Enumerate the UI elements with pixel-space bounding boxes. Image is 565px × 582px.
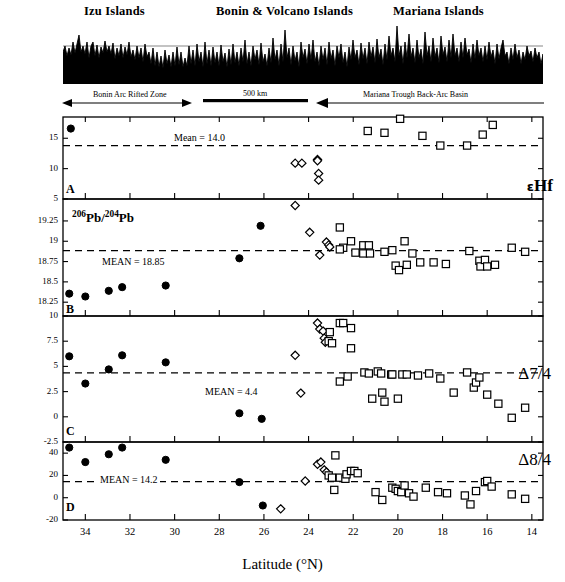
data-point-filled-circle [257, 222, 264, 229]
data-point-filled-circle [66, 290, 73, 297]
x-tick-label-9: 16 [467, 526, 507, 537]
x-tick-label-2: 30 [155, 526, 195, 537]
data-point-open-square [389, 371, 396, 378]
data-point-filled-circle [162, 456, 169, 463]
data-point-open-diamond [316, 251, 324, 259]
data-point-open-square [381, 248, 388, 255]
data-point-open-square [430, 259, 437, 266]
x-tick-label-4: 26 [244, 526, 284, 537]
data-point-open-square [352, 249, 359, 256]
y-tick-label-c-2: 2.5 [8, 386, 58, 396]
panel-a-ylabel: εHf [527, 176, 553, 196]
data-point-open-diamond [297, 389, 305, 397]
data-point-open-square [489, 121, 496, 128]
data-point-open-square [328, 340, 335, 347]
y-tick-label-a-0: 5 [8, 193, 58, 203]
data-point-open-square [366, 250, 373, 257]
y-tick-label-a-2: 15 [8, 132, 58, 142]
data-point-open-square [328, 474, 335, 481]
data-point-open-diamond [301, 477, 309, 485]
data-point-open-square [522, 495, 529, 502]
panel-letter-d: D [66, 500, 75, 515]
panel-b-ylabel: 206Pb/204Pb [72, 209, 134, 226]
data-point-open-square [379, 389, 386, 396]
data-point-open-diamond [291, 351, 299, 359]
data-point-open-diamond [291, 201, 299, 209]
data-point-open-square [403, 371, 410, 378]
data-point-filled-circle [162, 359, 169, 366]
data-point-open-square [331, 486, 338, 493]
panel-d-mean-label: MEAN = 14.2 [98, 474, 160, 485]
data-point-open-square [369, 395, 376, 402]
y-tick-label-b-2: 18.75 [8, 256, 58, 266]
y-tick-label-b-4: 19.25 [8, 215, 58, 225]
data-point-open-square [336, 378, 343, 385]
data-point-open-square [488, 483, 495, 490]
data-point-open-square [332, 452, 339, 459]
data-point-open-square [403, 261, 410, 268]
data-point-open-square [401, 238, 408, 245]
data-point-filled-circle [258, 415, 265, 422]
data-point-filled-circle [82, 293, 89, 300]
data-point-open-square [372, 489, 379, 496]
data-point-open-square [508, 244, 515, 251]
y-tick-label-a-1: 10 [8, 163, 58, 173]
data-point-open-square [450, 389, 457, 396]
data-point-open-square [476, 374, 483, 381]
panel-c [63, 316, 543, 442]
data-point-open-square [437, 142, 444, 149]
x-tick-label-0: 34 [65, 526, 105, 537]
y-tick-label-c-5: 10 [8, 310, 58, 320]
data-point-open-square [381, 398, 388, 405]
data-point-open-square [340, 319, 347, 326]
data-point-filled-circle [82, 380, 89, 387]
x-tick-label-1: 32 [110, 526, 150, 537]
data-point-open-square [479, 131, 486, 138]
x-tick-label-5: 24 [289, 526, 329, 537]
data-point-open-square [347, 238, 354, 245]
data-point-open-square [336, 246, 343, 253]
data-point-open-square [410, 493, 417, 500]
data-point-filled-circle [236, 410, 243, 417]
data-point-filled-circle [119, 444, 126, 451]
y-tick-label-c-3: 5 [8, 360, 58, 370]
data-point-open-square [344, 373, 351, 380]
data-point-open-square [491, 261, 498, 268]
data-point-open-square [472, 487, 479, 494]
data-point-filled-circle [105, 366, 112, 373]
data-point-open-square [379, 496, 386, 503]
data-point-open-diamond [315, 176, 323, 184]
y-tick-label-d-2: 20 [8, 469, 58, 479]
data-point-open-square [463, 142, 470, 149]
data-point-open-square [484, 391, 491, 398]
panel-a [63, 115, 543, 199]
data-point-open-square [389, 247, 396, 254]
data-point-filled-circle [67, 125, 74, 132]
y-tick-label-b-0: 18.25 [8, 296, 58, 306]
panel-d-ylabel: Δ8/4 [518, 450, 551, 470]
data-point-open-square [419, 132, 426, 139]
data-point-open-square [461, 492, 468, 499]
data-point-open-square [397, 115, 404, 122]
panel-b-mean-label: MEAN = 18.85 [100, 256, 167, 267]
data-point-open-square [467, 501, 474, 508]
data-point-open-square [354, 470, 361, 477]
data-point-open-square [395, 266, 402, 273]
panel-letter-a: A [66, 182, 75, 197]
data-point-open-square [426, 370, 433, 377]
data-point-filled-circle [236, 479, 243, 486]
y-tick-label-c-4: 7.5 [8, 335, 58, 345]
data-point-open-square [522, 248, 529, 255]
x-tick-label-7: 20 [378, 526, 418, 537]
data-point-open-square [414, 372, 421, 379]
data-point-open-square [364, 127, 371, 134]
data-point-open-square [347, 345, 354, 352]
data-point-filled-circle [119, 352, 126, 359]
data-point-filled-circle [162, 282, 169, 289]
data-point-open-square [508, 491, 515, 498]
data-point-open-square [463, 369, 470, 376]
data-point-open-square [347, 324, 354, 331]
data-point-open-square [443, 490, 450, 497]
data-point-open-diamond [306, 228, 314, 236]
y-tick-label-c-1: 0 [8, 411, 58, 421]
